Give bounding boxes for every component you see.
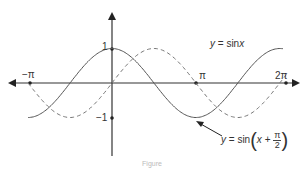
tick-two-pi bbox=[284, 81, 288, 85]
annotation-arrow bbox=[199, 123, 222, 136]
legend-shift-paren-open: ( bbox=[250, 129, 257, 151]
label-pi: π bbox=[199, 71, 206, 81]
tick-neg-one bbox=[110, 116, 114, 120]
legend-sinx: y = sinx bbox=[210, 39, 244, 49]
annotation-arrowhead-icon bbox=[196, 121, 204, 127]
x-axis-left-arrow-icon bbox=[8, 79, 16, 87]
legend-sinx-x: x bbox=[239, 38, 244, 49]
label-two-pi: 2π bbox=[275, 71, 287, 81]
legend-shift-eq: = sin bbox=[226, 134, 250, 145]
label-one: 1 bbox=[102, 42, 108, 52]
legend-sin-shift: y = sin(x + π2) bbox=[221, 130, 288, 150]
legend-shift-paren-close: ) bbox=[281, 129, 288, 151]
label-neg-pi: −π bbox=[22, 70, 35, 80]
legend-sinx-eq: = sin bbox=[215, 38, 239, 49]
legend-shift-plus: + bbox=[262, 134, 273, 145]
figure-caption: Figure bbox=[0, 160, 304, 167]
label-neg-one: −1 bbox=[96, 113, 107, 123]
